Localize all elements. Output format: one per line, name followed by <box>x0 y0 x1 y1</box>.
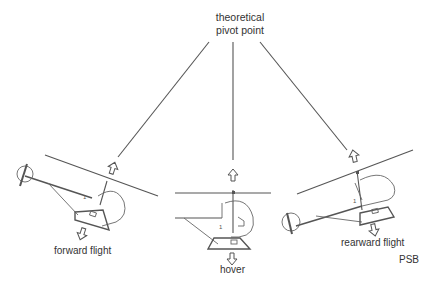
pivot-point-label: theoretical pivot point <box>190 11 290 37</box>
forward-flight-helicopter: 1 <box>17 155 158 241</box>
pivot-point-label-line1: theoretical <box>190 11 290 24</box>
svg-text:1: 1 <box>353 198 357 204</box>
hover-helicopter: 1 <box>175 169 271 265</box>
pivot-lines <box>118 42 347 160</box>
forward-flight-label: forward flight <box>54 245 111 257</box>
rearward-flight-label: rearward flight <box>341 237 404 249</box>
pivot-point-label-line2: pivot point <box>190 24 290 37</box>
credit-label: PSB <box>399 254 419 266</box>
svg-text:1: 1 <box>219 224 223 230</box>
rearward-flight-helicopter: 1 <box>282 149 413 237</box>
hover-label: hover <box>220 264 245 276</box>
